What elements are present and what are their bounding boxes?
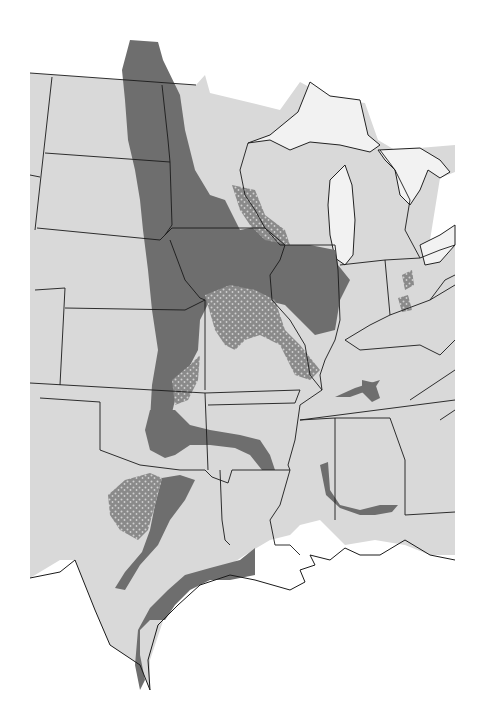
map-canvas: [0, 0, 485, 716]
